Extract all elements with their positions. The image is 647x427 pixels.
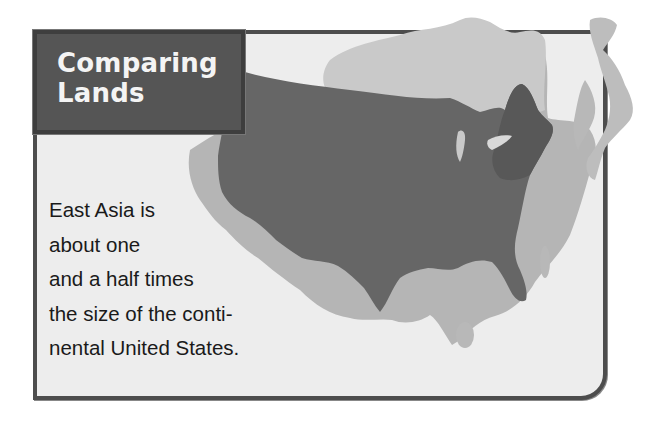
caption-line-5: nental United States. [49,331,239,366]
figure-caption: East Asia is about one and a half times … [49,193,239,366]
title-line-2: Lands [57,78,218,108]
taiwan-island [540,246,550,278]
caption-line-3: and a half times [49,262,239,297]
figure-title: Comparing Lands [57,48,218,108]
title-panel: Comparing Lands [33,30,245,134]
title-line-1: Comparing [57,48,218,78]
caption-line-4: the size of the conti- [49,297,239,332]
hainan-island [456,322,474,348]
caption-line-1: East Asia is [49,193,239,228]
caption-line-2: about one [49,228,239,263]
